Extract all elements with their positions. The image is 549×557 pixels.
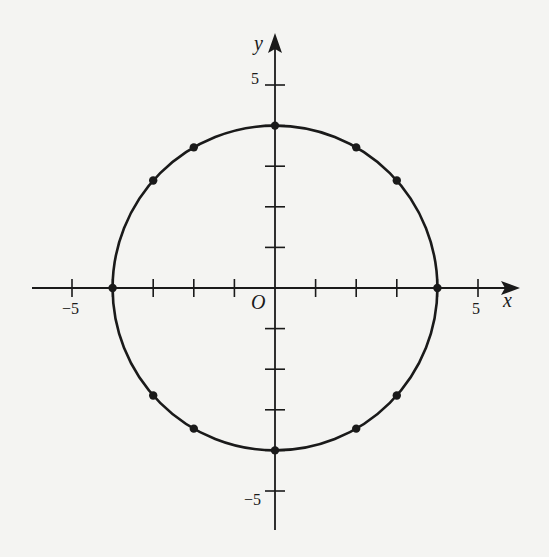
point-dot <box>190 424 198 432</box>
point-dot <box>149 176 157 184</box>
point-dot <box>393 391 401 399</box>
axes <box>32 33 520 530</box>
point-dot <box>108 284 116 292</box>
circle-plot: x y O −5 5 5 −5 <box>0 0 549 557</box>
x-axis-label: x <box>502 289 512 311</box>
y-tick-label-5: 5 <box>251 70 259 87</box>
point-dot <box>433 284 441 292</box>
point-dot <box>149 391 157 399</box>
y-axis-label: y <box>252 32 263 55</box>
origin-label: O <box>251 291 265 313</box>
point-dot <box>352 424 360 432</box>
coordinate-plane-figure: x y O −5 5 5 −5 <box>0 0 549 557</box>
x-tick-label-5: 5 <box>472 300 480 317</box>
x-tick-label-neg5: −5 <box>62 300 79 317</box>
y-tick-label-neg5: −5 <box>244 491 261 508</box>
point-dot <box>271 446 279 454</box>
point-dot <box>271 121 279 129</box>
point-dot <box>190 143 198 151</box>
point-dot <box>393 176 401 184</box>
point-dot <box>352 143 360 151</box>
